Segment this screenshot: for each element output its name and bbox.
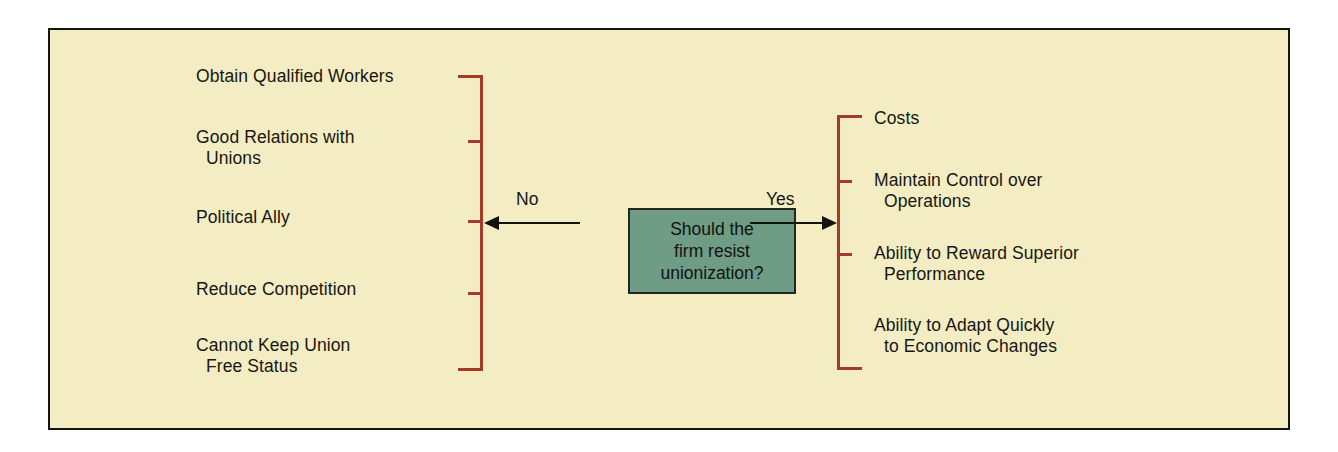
right-bracket-tick-2: [837, 180, 852, 183]
right-bracket-tick-3: [837, 253, 852, 256]
right-bracket-tick-1: [837, 115, 862, 118]
right-item-label-3: Ability to Reward Superior Performance: [874, 243, 1079, 285]
right-item-label-4: Ability to Adapt Quickly to Economic Cha…: [874, 315, 1057, 357]
right-arrowhead-icon: [822, 216, 837, 230]
diagram-canvas: Obtain Qualified Workers Good Relations …: [0, 0, 1338, 452]
right-bracket-spine: [837, 115, 840, 370]
diagram-panel: Obtain Qualified Workers Good Relations …: [48, 28, 1290, 430]
right-item-label-1: Costs: [874, 108, 919, 129]
right-item-label-2: Maintain Control over Operations: [874, 170, 1042, 212]
right-branch-label: Yes: [766, 189, 795, 210]
right-bracket-tick-4: [837, 367, 862, 370]
right-branch-group: Yes Costs Maintain Control over Operatio…: [50, 30, 1288, 428]
